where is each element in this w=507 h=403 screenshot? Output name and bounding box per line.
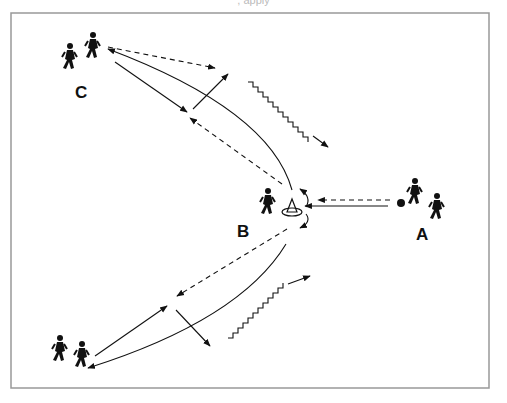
player-icon [85, 32, 100, 58]
dribble-arrow [313, 136, 328, 147]
player-group-d [52, 335, 89, 367]
dribble-path [228, 283, 283, 338]
player-icon [260, 188, 275, 214]
pass-arrow [177, 229, 287, 296]
drill-diagram [0, 0, 507, 403]
dribble-path [248, 82, 308, 142]
group-label-b: B [237, 222, 249, 242]
player-icon [407, 178, 422, 204]
pass-arrow [190, 118, 282, 184]
run-arrow [176, 310, 210, 346]
player-icon [74, 341, 89, 367]
run-arrow [88, 244, 286, 368]
run-arrow [108, 49, 292, 190]
player-group-b [260, 188, 302, 216]
player-group-a [397, 178, 444, 219]
run-arrow [193, 74, 228, 109]
player-group-c [62, 32, 100, 69]
turn-arrow [300, 214, 308, 228]
run-arrow [115, 62, 187, 112]
group-label-c: C [75, 83, 87, 103]
pass-arrow [108, 47, 215, 68]
cone-icon [287, 199, 297, 212]
turn-arrow [300, 189, 308, 207]
player-icon [62, 43, 77, 69]
ball-icon [397, 199, 405, 207]
run-arrow [95, 306, 167, 356]
dribble-arrow [288, 276, 310, 284]
group-label-a: A [416, 225, 428, 245]
player-icon [52, 335, 67, 361]
player-icon [429, 193, 444, 219]
